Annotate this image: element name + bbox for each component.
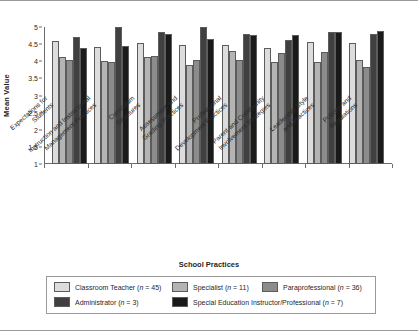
bar	[363, 67, 370, 164]
legend-label: Paraprofessional (n = 36)	[283, 284, 362, 291]
legend-row: Classroom Teacher (n = 45)Specialist (n …	[54, 282, 368, 292]
bar	[101, 61, 108, 164]
bar	[271, 62, 278, 164]
legend-item[interactable]: Special Education Instructor/Professiona…	[172, 297, 343, 307]
y-tick-label: 4.5	[28, 41, 38, 48]
x-tick-mark	[392, 164, 393, 168]
bar	[377, 31, 384, 164]
legend-row: Administrator (n = 3)Special Education I…	[54, 297, 368, 307]
y-tick-label: 3.5	[28, 75, 38, 82]
x-axis-title: School Practices	[0, 260, 418, 269]
bar	[328, 32, 335, 164]
y-tick-label: 4	[34, 58, 38, 65]
bar	[370, 34, 377, 164]
bar	[278, 53, 285, 164]
bar	[356, 60, 363, 164]
bar	[59, 57, 66, 164]
bar	[144, 57, 151, 164]
y-tick-mark	[39, 44, 42, 45]
bar	[321, 52, 328, 164]
legend-item[interactable]: Specialist (n = 11)	[172, 282, 262, 292]
legend-swatch-icon	[54, 282, 70, 292]
y-tick-mark	[39, 27, 42, 28]
y-tick-mark	[39, 129, 42, 130]
legend-swatch-icon	[172, 282, 188, 292]
legend-label: Special Education Instructor/Professiona…	[193, 299, 343, 306]
legend-item[interactable]: Administrator (n = 3)	[54, 297, 172, 307]
y-tick-label: 5	[34, 24, 38, 31]
legend: Classroom Teacher (n = 45)Specialist (n …	[46, 276, 376, 314]
legend-label: Specialist (n = 11)	[193, 284, 249, 291]
bar	[229, 51, 236, 164]
legend-swatch-icon	[262, 282, 278, 292]
bar-group	[346, 27, 389, 164]
bar	[314, 62, 321, 164]
figure-container: Mean Value 11.522.533.544.55 Expectation…	[0, 0, 418, 331]
y-tick-label: 2	[34, 126, 38, 133]
legend-item[interactable]: Paraprofessional (n = 36)	[262, 282, 362, 292]
y-tick-label: 3	[34, 92, 38, 99]
bar	[335, 32, 342, 164]
legend-swatch-icon	[172, 297, 188, 307]
x-axis-labels: Expectations for StudentsInstruction and…	[44, 168, 392, 254]
bar	[186, 65, 193, 164]
legend-swatch-icon	[54, 297, 70, 307]
y-tick-mark	[39, 61, 42, 62]
legend-label: Administrator (n = 3)	[75, 299, 139, 306]
y-tick-mark	[39, 78, 42, 79]
y-tick-mark	[39, 164, 42, 165]
legend-label: Classroom Teacher (n = 45)	[75, 284, 161, 291]
legend-item[interactable]: Classroom Teacher (n = 45)	[54, 282, 172, 292]
